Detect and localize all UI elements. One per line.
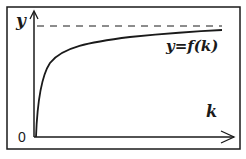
frame-border [7,7,240,149]
x-axis-label: k [206,102,217,121]
function-graph: y k 0 y=f(k) [0,0,246,159]
curve-label: y=f(k) [165,37,218,55]
y-axis-label: y [15,10,27,30]
origin-label: 0 [18,129,26,145]
